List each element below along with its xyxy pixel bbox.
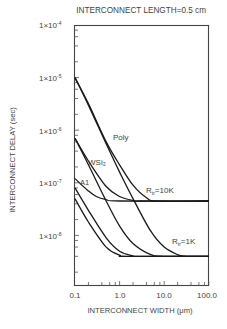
curve-6 <box>75 199 209 257</box>
plot-frame <box>75 26 209 286</box>
x-tick-10.0: 10.0 <box>156 291 172 300</box>
label-wsi2: WSi₂ <box>88 158 106 167</box>
x-axis-label: INTERCONNECT WIDTH (μm) <box>87 306 193 315</box>
chart-canvas: INTERCONNECT LENGTH=0.5 cm 1×10-4 1×10-5… <box>0 0 227 329</box>
label-al: A1 <box>80 178 89 187</box>
y-axis-label: INTERCONNECT DELAY (sec) <box>8 107 17 213</box>
curve-5 <box>75 188 209 256</box>
y-tick-1e-8: 1×10-8 <box>39 231 62 242</box>
curve-2 <box>75 138 209 201</box>
y-tick-1e-4: 1×10-4 <box>39 20 62 31</box>
y-tick-1e-7: 1×10-7 <box>39 178 62 189</box>
curve-1 <box>75 78 209 257</box>
x-tick-1.0: 1.0 <box>114 291 126 300</box>
y-tick-labels: 1×10-4 1×10-5 1×10-6 1×10-7 1×10-8 <box>39 20 62 242</box>
chart-title: INTERCONNECT LENGTH=0.5 cm <box>76 6 206 15</box>
label-rtr-1k: Rtr=1K <box>172 237 196 247</box>
y-tick-1e-5: 1×10-5 <box>39 73 62 84</box>
label-rtr-10k: Rtr=10K <box>146 186 174 196</box>
x-tick-100.0: 100.0 <box>197 291 218 300</box>
x-tick-labels: 0.1 1.0 10.0 100.0 <box>69 291 217 300</box>
data-curves <box>75 78 209 257</box>
curve-4 <box>75 179 209 202</box>
y-tick-1e-6: 1×10-6 <box>39 126 62 137</box>
curve-0 <box>75 78 209 202</box>
x-tick-0.1: 0.1 <box>69 291 81 300</box>
label-poly: Poly <box>113 133 129 142</box>
